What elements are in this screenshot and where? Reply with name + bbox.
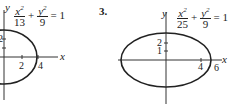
right-y-tick-label-1: 1 (157, 45, 162, 56)
left-x-label: x (60, 50, 65, 62)
left-x-tick-label-4: 4 (38, 60, 43, 71)
left-y-tick-label-2: 2 (0, 33, 3, 44)
right-x-tick-label-4: 4 (198, 61, 203, 72)
right-y-label: y (162, 7, 167, 19)
left-x-tick-label-2: 2 (19, 60, 24, 71)
right-equation: x2 25 + y2 9 = 1 (177, 5, 228, 29)
left-y-label: y (5, 1, 10, 13)
problem-number: 3. (99, 5, 107, 17)
right-x-tick-label-6: 6 (214, 62, 219, 73)
left-equation: x2 13 + y2 9 = 1 (14, 3, 65, 27)
right-x-label: x (222, 53, 227, 65)
